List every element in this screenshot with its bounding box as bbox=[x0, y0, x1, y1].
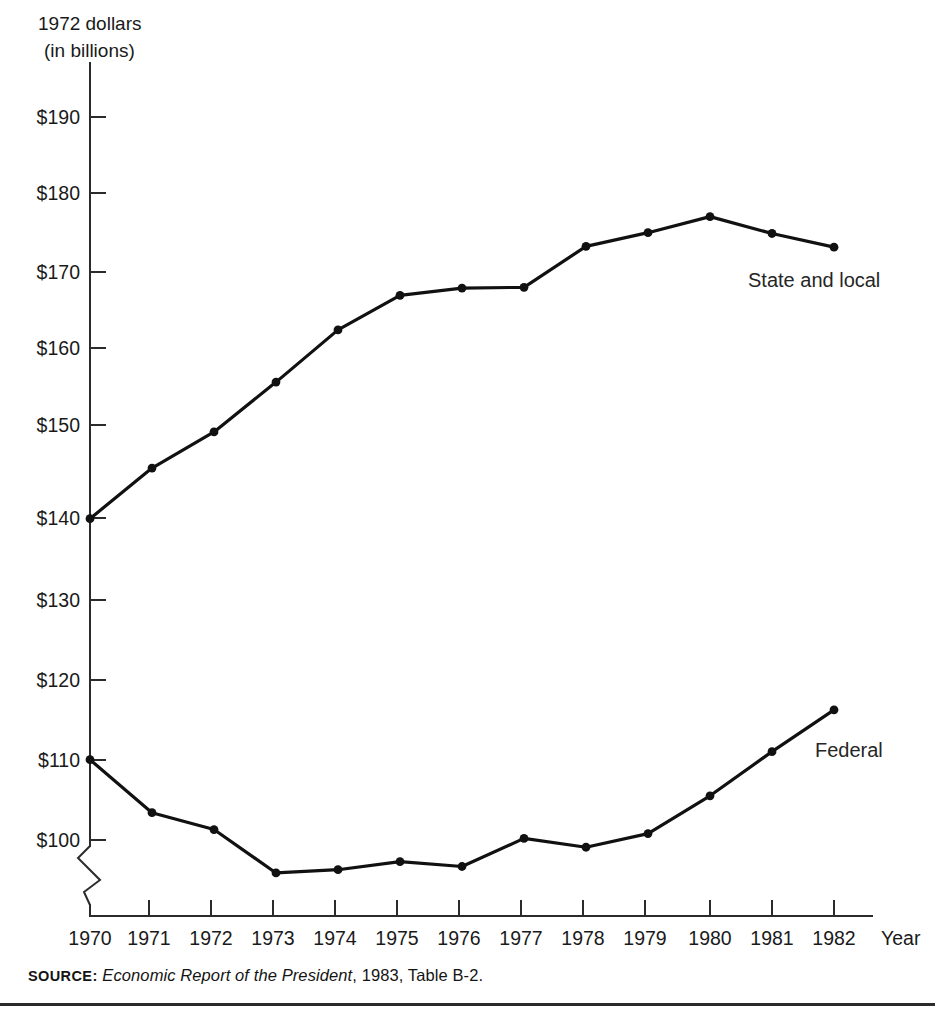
series-label-federal: Federal bbox=[815, 739, 883, 761]
x-tick-label-1977: 1977 bbox=[499, 927, 542, 949]
data-point bbox=[396, 857, 405, 866]
source-tail: , 1983, Table B-2. bbox=[352, 966, 483, 984]
series-line-federal bbox=[90, 710, 834, 873]
x-tick-label-1981: 1981 bbox=[750, 927, 793, 949]
data-point bbox=[334, 865, 343, 874]
source-note: SOURCE: Economic Report of the President… bbox=[28, 966, 908, 985]
data-point bbox=[334, 325, 343, 334]
data-point bbox=[706, 791, 715, 800]
x-tick-label-1976: 1976 bbox=[437, 927, 480, 949]
y-tick-label-180: $180 bbox=[37, 182, 81, 204]
y-tick-label-150: $150 bbox=[37, 414, 81, 436]
y-tick-label-110: $110 bbox=[38, 749, 80, 771]
source-title: Economic Report of the President bbox=[102, 966, 352, 984]
y-tick-label-130: $130 bbox=[37, 589, 81, 611]
series-label-state-and-local: State and local bbox=[748, 269, 880, 291]
data-point bbox=[396, 291, 405, 300]
source-keyword: SOURCE: bbox=[28, 968, 98, 984]
data-point bbox=[582, 843, 591, 852]
data-point bbox=[210, 825, 219, 834]
x-tick-label-1982: 1982 bbox=[812, 927, 855, 949]
x-tick-label-1975: 1975 bbox=[375, 927, 419, 949]
data-point bbox=[458, 862, 467, 871]
y-tick-label-190: $190 bbox=[37, 106, 81, 128]
data-point bbox=[148, 464, 157, 473]
y-tick-label-140: $140 bbox=[37, 507, 81, 529]
data-point bbox=[272, 378, 281, 387]
x-tick-label-1973: 1973 bbox=[251, 927, 294, 949]
x-tick-label-1971: 1971 bbox=[127, 927, 170, 949]
y-axis-caption-line2: (in billions) bbox=[44, 40, 135, 61]
y-tick-label-120: $120 bbox=[37, 669, 81, 691]
data-point bbox=[210, 428, 219, 437]
data-point bbox=[520, 834, 529, 843]
y-tick-marks bbox=[90, 117, 106, 840]
data-point bbox=[768, 747, 777, 756]
series-line-state-and-local bbox=[90, 217, 834, 519]
data-point bbox=[768, 229, 777, 238]
x-tick-label-1980: 1980 bbox=[688, 927, 732, 949]
bottom-divider bbox=[0, 1003, 935, 1006]
data-point bbox=[830, 243, 839, 252]
chart-canvas: 1972 dollars (in billions) $190 $180 $17… bbox=[0, 0, 935, 1015]
data-point bbox=[458, 284, 467, 293]
data-point bbox=[706, 212, 715, 221]
series-layer bbox=[86, 212, 839, 877]
x-axis-title: Year bbox=[881, 927, 921, 949]
data-point bbox=[830, 705, 839, 714]
x-tick-label-1970: 1970 bbox=[68, 927, 112, 949]
y-tick-label-170: $170 bbox=[37, 261, 81, 283]
data-point bbox=[86, 514, 95, 523]
chart-figure: 1972 dollars (in billions) $190 $180 $17… bbox=[0, 0, 935, 1015]
y-tick-label-160: $160 bbox=[37, 337, 81, 359]
x-tick-label-1979: 1979 bbox=[623, 927, 666, 949]
data-point bbox=[520, 283, 529, 292]
y-tick-label-100: $100 bbox=[37, 829, 81, 851]
data-point bbox=[272, 869, 281, 878]
data-point bbox=[644, 829, 653, 838]
data-point bbox=[86, 755, 95, 764]
x-tick-label-1974: 1974 bbox=[313, 927, 357, 949]
axis-break-icon bbox=[78, 846, 100, 905]
data-point bbox=[148, 808, 157, 817]
x-tick-marks bbox=[149, 900, 834, 916]
x-tick-label-1978: 1978 bbox=[561, 927, 604, 949]
x-tick-label-1972: 1972 bbox=[189, 927, 232, 949]
y-axis-caption-line1: 1972 dollars bbox=[38, 13, 142, 34]
data-point bbox=[582, 242, 591, 251]
data-point bbox=[644, 228, 653, 237]
